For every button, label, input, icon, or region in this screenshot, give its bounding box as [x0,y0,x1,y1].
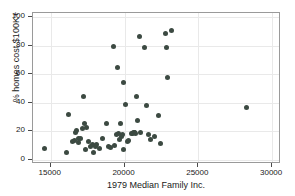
x-axis-tick-label: 30000 [248,168,294,177]
data-point [142,45,147,50]
x-axis-tick [271,163,272,167]
y-axis-label: % homes cost $100K+ [11,0,21,127]
gridline-horizontal [33,103,279,104]
x-axis-tick [50,163,51,167]
data-point [111,44,116,49]
gridline-vertical [51,13,52,162]
data-point [74,128,79,133]
x-axis-tick-label: 15000 [27,168,73,177]
data-point [135,118,140,123]
data-point [115,65,120,70]
y-axis-tick [28,16,32,17]
data-point [164,45,169,50]
gridline-vertical [272,13,273,162]
gridline-horizontal [33,131,279,132]
gridline-vertical [198,13,199,162]
data-point [118,121,123,126]
data-point [244,105,249,110]
data-point [169,28,174,33]
data-point [138,130,143,135]
x-axis-tick [124,163,125,167]
data-point [152,134,157,139]
data-point [137,34,142,39]
data-point [100,136,105,141]
data-point [163,31,168,36]
data-point [97,146,102,151]
plot-area [32,12,280,163]
gridline-horizontal [33,17,279,18]
data-point [91,150,96,155]
data-point [66,112,71,117]
data-point [126,138,131,143]
cropped-page-text [288,6,295,126]
y-axis-tick [28,130,32,131]
data-point [165,75,170,80]
gridline-horizontal [33,160,279,161]
y-axis-tick [28,159,32,160]
data-point [64,150,69,155]
x-axis-tick-label: 20000 [101,168,147,177]
data-point [121,147,126,152]
data-point [123,102,128,107]
gridline-horizontal [33,46,279,47]
gridline-horizontal [33,74,279,75]
data-point [42,146,47,151]
y-axis-tick [28,73,32,74]
data-point [84,125,89,130]
y-axis-tick-label: 0 [0,154,25,163]
y-axis-tick [28,45,32,46]
data-point [112,143,117,148]
data-point [78,136,83,141]
x-axis-tick-label: 25000 [174,168,220,177]
data-point [81,94,86,99]
data-point [76,140,81,145]
x-axis-tick [197,163,198,167]
data-point [144,103,149,108]
y-axis-tick [28,102,32,103]
data-point [121,80,126,85]
data-point [104,121,109,126]
data-point [158,141,163,146]
data-point [156,113,161,118]
data-point [134,94,139,99]
x-axis-label: 1979 Median Family Inc. [32,180,280,190]
data-point [83,147,88,152]
scatter-plot-figure: 15000200002500030000020406080100 1979 Me… [0,0,295,196]
